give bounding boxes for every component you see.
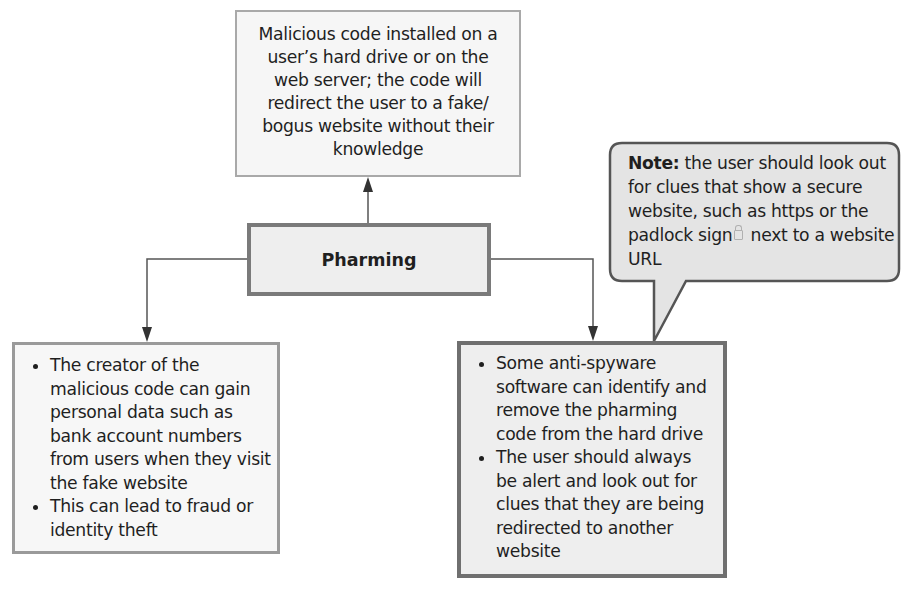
- arrow-to-prevention: [491, 259, 593, 328]
- arrow-to-consequences: [147, 259, 247, 330]
- definition-line: bogus website without their: [245, 115, 511, 138]
- list-item: Some anti-spyware software can identify …: [496, 352, 717, 446]
- central-topic-title: Pharming: [322, 250, 417, 270]
- definition-line: redirect the user to a fake/: [245, 92, 511, 115]
- list-item: The creator of the malicious code can ga…: [50, 354, 271, 495]
- arrowhead-left-down: [142, 327, 152, 342]
- definition-line: web server; the code will: [245, 69, 511, 92]
- definition-box: Malicious code installed on a user’s har…: [235, 10, 521, 177]
- note-callout-text: Note: the user should look out for clues…: [628, 151, 896, 271]
- prevention-box: Some anti-spyware software can identify …: [457, 341, 727, 578]
- definition-line: user’s hard drive or on the: [245, 46, 511, 69]
- padlock-icon: [734, 230, 743, 240]
- list-item: This can lead to fraud or identity theft: [50, 495, 271, 542]
- consequences-list: The creator of the malicious code can ga…: [35, 354, 271, 542]
- note-label: Note:: [628, 153, 679, 173]
- prevention-list: Some anti-spyware software can identify …: [481, 352, 717, 564]
- definition-line: knowledge: [245, 138, 511, 161]
- arrowhead-up: [363, 177, 373, 192]
- list-item: The user should always be alert and look…: [496, 446, 717, 564]
- definition-line: Malicious code installed on a: [245, 23, 511, 46]
- central-topic-box: Pharming: [247, 223, 491, 296]
- arrowhead-right-down: [588, 326, 598, 341]
- consequences-box: The creator of the malicious code can ga…: [12, 342, 280, 554]
